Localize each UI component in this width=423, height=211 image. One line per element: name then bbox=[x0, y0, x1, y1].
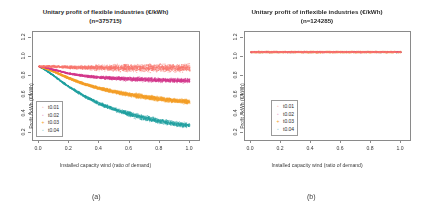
panel-caption-a: (a) bbox=[92, 193, 101, 200]
legend-marker-icon: + bbox=[274, 118, 282, 126]
chart-title-a-line1: Unitary profit of flexible industries (€… bbox=[43, 8, 169, 15]
legend-label: t0.01 bbox=[47, 104, 59, 112]
x-tick-label: 1.0 bbox=[391, 145, 409, 151]
legend-label: t0.01 bbox=[282, 103, 294, 111]
y-tick-label: 0.6 bbox=[20, 87, 26, 101]
y-tick-label: 1.0 bbox=[232, 49, 238, 63]
legend-marker-icon: ◦ bbox=[274, 111, 282, 119]
legend-item[interactable]: ◦ t0.01 bbox=[274, 103, 294, 111]
x-tickmark bbox=[189, 140, 190, 143]
legend-item[interactable]: ◦ t0.02 bbox=[274, 111, 294, 119]
legend-marker-icon: ◦ bbox=[274, 103, 282, 111]
x-tickmark bbox=[400, 140, 401, 143]
legend-marker-icon: + bbox=[39, 119, 47, 127]
chart-title-b-line1: Unitary profit of inflexible industries … bbox=[251, 8, 382, 15]
y-tick-label: 0.4 bbox=[20, 106, 26, 120]
x-tick-label: 0.6 bbox=[120, 145, 138, 151]
panel-caption-b: (b) bbox=[307, 193, 316, 200]
y-tickmark bbox=[28, 37, 31, 38]
legend-label: t0.03 bbox=[282, 118, 294, 126]
legend-item[interactable]: + t0.03 bbox=[274, 118, 294, 126]
figure-row: Unitary profit of flexible industries (€… bbox=[0, 0, 423, 211]
x-tickmark bbox=[310, 140, 311, 143]
y-tickmark bbox=[240, 75, 243, 76]
y-axis-label-a: Profit / kWh (€/kWh) bbox=[28, 83, 34, 129]
x-tick-label: 0.0 bbox=[241, 145, 259, 151]
legend-item[interactable]: ◦ t0.01 bbox=[39, 104, 59, 112]
legend-item[interactable]: ◦ t0.02 bbox=[39, 112, 59, 120]
legend-item[interactable]: + t0.03 bbox=[39, 119, 59, 127]
legend-item[interactable]: ◦ t0.04 bbox=[39, 127, 59, 135]
x-tickmark bbox=[280, 140, 281, 143]
x-axis-label-b: Installed capacity wind (ratio of demand… bbox=[211, 162, 423, 168]
y-tick-label: 0.8 bbox=[232, 68, 238, 82]
x-tickmark bbox=[340, 140, 341, 143]
y-tickmark bbox=[240, 56, 243, 57]
panel-b: Unitary profit of inflexible industries … bbox=[211, 0, 423, 211]
legend-label: t0.03 bbox=[47, 119, 59, 127]
y-tick-label: 0.2 bbox=[232, 125, 238, 139]
chart-title-b-line2: (n=124285) bbox=[211, 16, 423, 25]
x-tickmark bbox=[129, 140, 130, 143]
x-tick-label: 0.6 bbox=[331, 145, 349, 151]
legend-marker-icon: ◦ bbox=[39, 112, 47, 120]
y-tick-label: 1.2 bbox=[20, 30, 26, 44]
panel-a: Unitary profit of flexible industries (€… bbox=[0, 0, 211, 211]
legend-marker-icon: ◦ bbox=[39, 104, 47, 112]
y-tick-label: 1.2 bbox=[232, 30, 238, 44]
y-tick-label: 0.6 bbox=[232, 87, 238, 101]
x-tickmark bbox=[38, 140, 39, 143]
x-tickmark bbox=[159, 140, 160, 143]
y-tick-label: 0.8 bbox=[20, 68, 26, 82]
x-tickmark bbox=[98, 140, 99, 143]
legend-marker-icon: ◦ bbox=[39, 127, 47, 135]
y-axis-label-b: Profit / kWh (€/kWh) bbox=[239, 83, 245, 129]
legend-b: ◦ t0.01 ◦ t0.02 + t0.03 ◦ t0.04 bbox=[271, 100, 298, 136]
y-tickmark bbox=[28, 56, 31, 57]
legend-label: t0.04 bbox=[47, 127, 59, 135]
legend-marker-icon: ◦ bbox=[274, 126, 282, 134]
x-tickmark bbox=[250, 140, 251, 143]
y-tickmark bbox=[240, 37, 243, 38]
x-tick-label: 0.4 bbox=[301, 145, 319, 151]
scatter-canvas-b bbox=[245, 32, 410, 140]
chart-title-a-line2: (n=375715) bbox=[0, 16, 211, 25]
x-tick-label: 0.4 bbox=[89, 145, 107, 151]
y-tick-label: 0.4 bbox=[232, 106, 238, 120]
legend-item[interactable]: ◦ t0.04 bbox=[274, 126, 294, 134]
plot-area-b bbox=[244, 31, 411, 141]
y-tickmark bbox=[240, 132, 243, 133]
x-axis-label-a: Installed capacity wind (ratio of demand… bbox=[0, 162, 211, 168]
legend-label: t0.04 bbox=[282, 126, 294, 134]
legend-label: t0.02 bbox=[47, 112, 59, 120]
chart-title-a: Unitary profit of flexible industries (€… bbox=[0, 7, 211, 25]
x-tick-label: 0.8 bbox=[361, 145, 379, 151]
legend-label: t0.02 bbox=[282, 111, 294, 119]
x-tick-label: 0.2 bbox=[59, 145, 77, 151]
y-tickmark bbox=[28, 132, 31, 133]
y-tick-label: 0.2 bbox=[20, 125, 26, 139]
y-tickmark bbox=[28, 75, 31, 76]
legend-a: ◦ t0.01 ◦ t0.02 + t0.03 ◦ t0.04 bbox=[36, 101, 63, 137]
y-tick-label: 1.0 bbox=[20, 49, 26, 63]
x-tick-label: 1.0 bbox=[180, 145, 198, 151]
x-tick-label: 0.0 bbox=[29, 145, 47, 151]
x-tickmark bbox=[68, 140, 69, 143]
x-tickmark bbox=[370, 140, 371, 143]
chart-title-b: Unitary profit of inflexible industries … bbox=[211, 7, 423, 25]
x-tick-label: 0.8 bbox=[150, 145, 168, 151]
x-tick-label: 0.2 bbox=[271, 145, 289, 151]
